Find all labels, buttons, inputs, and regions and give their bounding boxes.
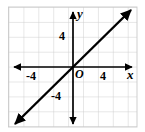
y-tick-label-negative-4: -4	[51, 90, 61, 102]
x-axis-label: x	[127, 68, 134, 81]
y-axis-label: y	[77, 7, 83, 20]
x-tick-label-negative-4: -4	[26, 70, 36, 82]
origin-label: O	[75, 68, 84, 80]
graph-canvas	[0, 0, 145, 132]
x-tick-label-positive-4: 4	[100, 70, 106, 82]
coordinate-plane-figure: y x O -4 4 4 -4	[0, 0, 145, 132]
y-tick-label-positive-4: 4	[59, 30, 65, 42]
